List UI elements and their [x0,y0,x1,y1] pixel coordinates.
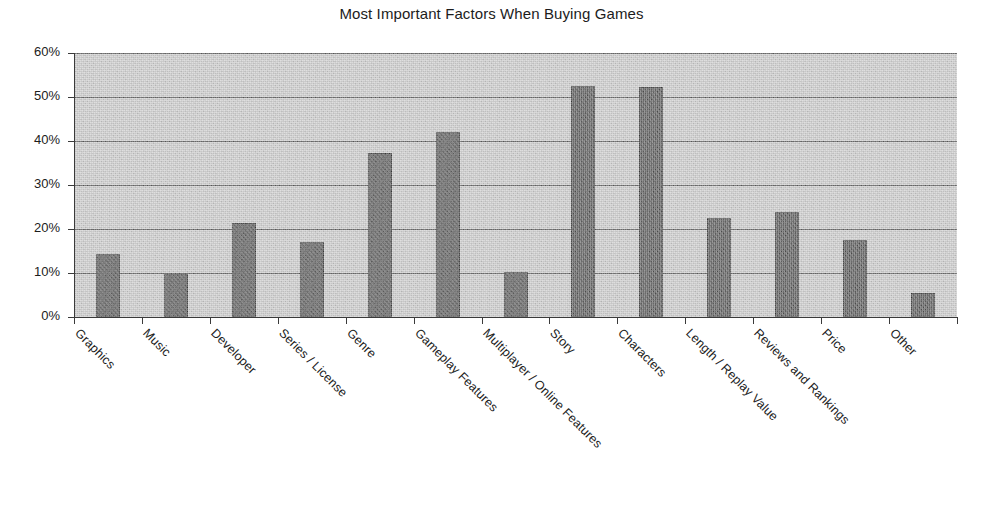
y-axis-tick-mark [68,273,74,274]
x-axis-label: Characters [615,326,669,380]
x-axis-tick-mark [414,318,415,324]
bar-characters [639,87,663,317]
x-axis-label: Genre [344,326,379,361]
y-axis-label: 10% [2,264,60,279]
bar-chart: Most Important Factors When Buying Games… [0,0,983,530]
gridline [74,97,957,98]
y-axis-label: 60% [2,44,60,59]
y-axis-label: 50% [2,88,60,103]
y-axis-tick-mark [68,53,74,54]
bar-reviews-and-rankings [775,212,799,317]
y-axis-label: 20% [2,220,60,235]
x-axis-label: Other [887,326,919,358]
x-axis-label: Music [140,326,173,359]
bar-series-license [300,242,324,317]
bar-other [911,293,935,317]
gridline [74,229,957,230]
chart-title: Most Important Factors When Buying Games [0,5,983,22]
y-axis-tick-mark [68,185,74,186]
x-axis-tick-mark [278,318,279,324]
y-axis-label: 40% [2,132,60,147]
bar-story [571,86,595,317]
x-axis-tick-mark [685,318,686,324]
y-axis-label: 0% [2,308,60,323]
gridline [74,141,957,142]
x-axis-label: Graphics [72,326,118,372]
x-axis-tick-mark [617,318,618,324]
bar-price [843,240,867,317]
x-axis-tick-mark [210,318,211,324]
y-axis-label: 30% [2,176,60,191]
x-axis-label: Developer [208,326,259,377]
x-axis-label: Story [548,326,579,357]
x-axis-tick-mark [889,318,890,324]
gridline [74,53,957,54]
bar-music [164,274,188,317]
y-axis-tick-mark [68,229,74,230]
bar-graphics [96,254,120,317]
x-axis-tick-mark [753,318,754,324]
x-axis-tick-mark [74,318,75,324]
x-axis-label: Price [819,326,849,356]
bar-gameplay-features [436,132,460,317]
bar-genre [368,153,392,317]
plot-area [74,53,957,317]
y-axis-tick-mark [68,141,74,142]
bar-multiplayer-online-features [504,272,528,317]
bar-developer [232,223,256,317]
x-axis-label: Multiplayer / Online Features [480,326,605,451]
gridline [74,185,957,186]
bar-length-replay-value [707,218,731,317]
x-axis-tick-mark [821,318,822,324]
x-axis-tick-mark [957,318,958,324]
y-axis-line [74,53,75,318]
x-axis-tick-mark [549,318,550,324]
x-axis-tick-mark [346,318,347,324]
x-axis-tick-mark [482,318,483,324]
x-axis-tick-mark [142,318,143,324]
x-axis-line [74,317,958,318]
y-axis-tick-mark [68,97,74,98]
x-axis-label: Series / License [276,326,350,400]
